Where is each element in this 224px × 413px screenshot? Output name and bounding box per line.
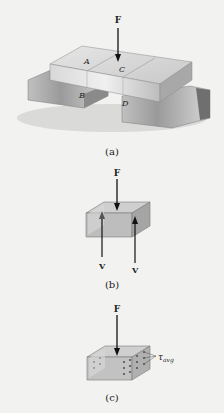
figure-c-diagram: F τavg [0,300,224,390]
figure-a-diagram: F A C B D [0,0,224,150]
caption-b: (b) [0,279,224,290]
figure-b-diagram: F V V [0,165,224,275]
shear-arrow-right [132,216,138,263]
label-d: D [121,99,129,108]
force-label: F [114,304,121,314]
caption-c: (c) [0,392,224,403]
force-label: F [115,15,122,25]
label-c: C [119,65,125,74]
label-a: A [83,57,90,66]
shear-label-left: V [98,261,106,271]
caption-a: (a) [0,146,224,157]
force-arrow-f [114,315,120,356]
stress-label: τavg [158,352,174,364]
force-label: F [114,168,121,178]
shear-label-right: V [131,265,139,275]
label-b: B [78,91,85,100]
